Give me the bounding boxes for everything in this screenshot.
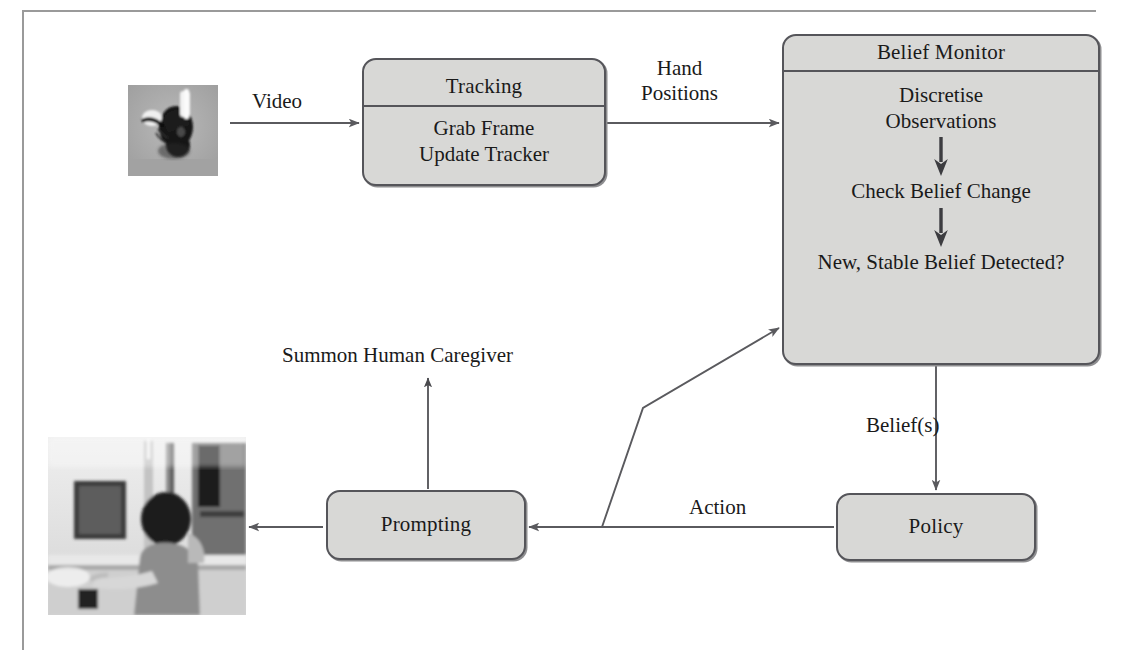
page-rule-top xyxy=(22,10,1096,12)
node-tracking-line2: Update Tracker xyxy=(370,141,598,167)
node-prompting-title: Prompting xyxy=(381,513,471,536)
edge-label-hand-positions: Hand Positions xyxy=(641,56,718,106)
edge-label-beliefs: Belief(s) xyxy=(866,413,939,438)
hand-tracking-thumbnail xyxy=(128,85,218,176)
node-belief-monitor[interactable]: Belief Monitor Discretise Observations C… xyxy=(782,34,1100,365)
edge-label-hand-line1: Hand xyxy=(641,56,718,81)
belief-step-discretise-line1: Discretise xyxy=(899,82,983,108)
belief-step-new-stable-detected: New, Stable Belief Detected? xyxy=(817,249,1064,275)
node-tracking[interactable]: Tracking Grab Frame Update Tracker xyxy=(362,58,606,186)
edge-label-action: Action xyxy=(689,495,746,520)
belief-step-check-change: Check Belief Change xyxy=(851,178,1031,204)
edge-label-video: Video xyxy=(252,89,302,114)
node-policy[interactable]: Policy xyxy=(836,493,1036,561)
edge-label-summon-human-caregiver: Summon Human Caregiver xyxy=(282,343,513,368)
belief-inner-arrow-1 xyxy=(931,136,951,176)
diagram-canvas: Tracking Grab Frame Update Tracker Belie… xyxy=(0,0,1139,650)
node-prompting[interactable]: Prompting xyxy=(326,490,526,560)
kitchen-scene-thumbnail xyxy=(48,437,246,615)
node-belief-monitor-body: Discretise Observations Check Belief Cha… xyxy=(784,72,1098,363)
node-tracking-body: Grab Frame Update Tracker xyxy=(364,107,604,174)
node-tracking-title: Tracking xyxy=(364,70,604,104)
node-policy-title: Policy xyxy=(909,515,964,538)
node-tracking-line1: Grab Frame xyxy=(370,115,598,141)
edge-label-hand-line2: Positions xyxy=(641,81,718,106)
page-rule-left xyxy=(22,10,24,650)
belief-inner-arrow-2 xyxy=(931,207,951,247)
node-belief-monitor-title: Belief Monitor xyxy=(784,36,1098,70)
belief-step-discretise-line2: Observations xyxy=(886,108,997,134)
